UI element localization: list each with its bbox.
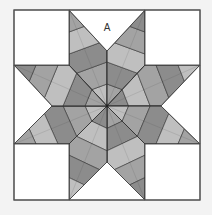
center-point xyxy=(106,105,109,108)
corner-square-bottom-right xyxy=(145,144,200,200)
block-outlines xyxy=(14,10,200,200)
quilt-block-diagram: A xyxy=(0,0,212,215)
corner-square-top-left xyxy=(14,10,69,65)
block-label-a: A xyxy=(104,22,111,33)
corner-square-bottom-left xyxy=(14,144,69,200)
corner-square-top-right xyxy=(145,10,200,65)
